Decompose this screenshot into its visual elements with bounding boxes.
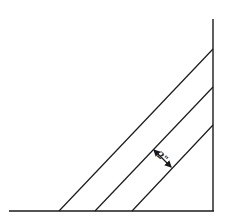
- diagram-canvas: [0, 0, 234, 222]
- diagonal-line-1: [59, 49, 213, 211]
- diagonal-line-3: [132, 125, 213, 211]
- diagonal-line-2: [95, 87, 213, 211]
